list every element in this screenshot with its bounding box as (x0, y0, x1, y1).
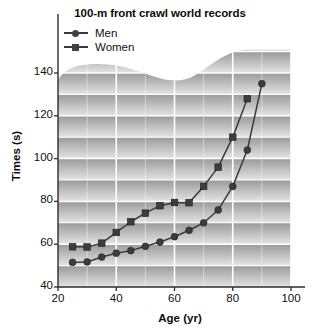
chart-figure: 100-m front crawl world records Men Wome… (0, 0, 320, 332)
plot-area (0, 0, 320, 332)
